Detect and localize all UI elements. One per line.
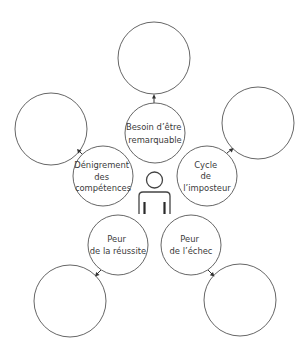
- label-line: Peur: [180, 234, 199, 244]
- label-line: Peur: [107, 234, 126, 244]
- arrowhead-besoin: [152, 94, 156, 99]
- label-line: Cycle: [194, 160, 217, 170]
- imposter-syndrome-diagram: Besoin d’être remarquable Dénigrement de…: [0, 0, 308, 356]
- node-besoin: Besoin d’être remarquable: [118, 22, 190, 163]
- label-line: remarquable: [128, 134, 182, 144]
- person-head: [147, 172, 163, 188]
- inner-circle-besoin: [125, 103, 185, 163]
- outer-circle-echec[interactable]: [204, 264, 276, 336]
- label-line: de la réussite: [90, 245, 146, 255]
- person-icon: [139, 172, 170, 214]
- node-echec: Peur de l’échec: [161, 215, 276, 336]
- outer-circle-besoin[interactable]: [118, 22, 190, 94]
- node-cycle: Cycle de l’imposteur: [177, 87, 294, 206]
- label-line: compétences: [75, 183, 131, 193]
- label-line: Dénigrement: [74, 160, 130, 170]
- label-line: l’imposteur: [183, 182, 231, 192]
- outer-circle-denigrement[interactable]: [15, 93, 87, 165]
- label-line: de l’échec: [170, 245, 213, 255]
- node-denigrement: Dénigrement des compétences: [15, 93, 133, 206]
- label-line: des: [94, 171, 109, 181]
- node-reussite: Peur de la réussite: [34, 215, 148, 337]
- label-line: Besoin d’être: [126, 121, 182, 131]
- label-line: de: [200, 171, 210, 181]
